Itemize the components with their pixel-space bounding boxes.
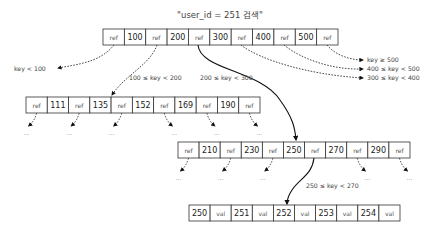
cell-key-value: 111: [50, 101, 65, 110]
cell-val: val: [216, 210, 225, 217]
child-pointer-arrow: [207, 113, 215, 126]
child-pointer-arrow: [223, 158, 231, 171]
cell-key-value: 300: [213, 33, 228, 42]
cell-ref: ref: [118, 102, 127, 109]
cell-ref: ref: [353, 147, 362, 154]
cell-key-value: 169: [178, 101, 193, 110]
left-child-page: ref111ref135ref152ref169ref190ref: [26, 97, 260, 113]
arrow-key-200-300-search-path: [198, 45, 296, 140]
arrow-key-250-270-search-path: [287, 158, 314, 204]
cell-key-value: 250: [286, 146, 301, 155]
cell-key-value: 400: [256, 33, 271, 42]
cell-ref: ref: [152, 34, 161, 41]
diagram-title: "user_id = 251 검색": [177, 10, 263, 20]
cell-key-value: 251: [234, 209, 249, 218]
label-key-lt-100: key < 100: [14, 65, 46, 73]
cell-key-value: 230: [244, 146, 259, 155]
middle-page-child-arrows: ...............: [176, 158, 413, 181]
cell-val: val: [301, 210, 310, 217]
cell-key-value: 200: [170, 33, 185, 42]
cell-ref: ref: [33, 102, 42, 109]
cell-ref: ref: [281, 34, 290, 41]
cell-key-value: 100: [127, 33, 142, 42]
cell-val: val: [343, 210, 352, 217]
cell-ref: ref: [184, 147, 193, 154]
cell-key-value: 500: [298, 33, 313, 42]
arrow-key-400-500: [284, 45, 363, 69]
cell-ref: ref: [245, 102, 254, 109]
cell-ref: ref: [238, 34, 247, 41]
cell-ref: ref: [203, 102, 212, 109]
cell-ref: ref: [160, 102, 169, 109]
cell-key-value: 254: [361, 209, 376, 218]
cell-ref: ref: [110, 34, 119, 41]
cell-val: val: [385, 210, 394, 217]
ellipsis: ...: [109, 129, 115, 136]
ellipsis: ...: [256, 129, 262, 136]
ellipsis: ...: [176, 174, 182, 181]
label-key-300-400: 300 ≤ key < 400: [367, 74, 420, 82]
child-pointer-arrow: [399, 158, 407, 171]
cell-key-value: 252: [276, 209, 291, 218]
child-pointer-arrow: [164, 113, 172, 126]
cell-ref: ref: [311, 147, 320, 154]
ellipsis: ...: [260, 174, 266, 181]
label-key-gte-500: key ≥ 500: [367, 56, 399, 64]
arrow-key-300-400: [241, 45, 363, 78]
root-page: ref100ref200ref300ref400ref500ref: [103, 29, 338, 45]
child-pointer-arrow: [114, 113, 122, 126]
cell-key-value: 190: [220, 101, 235, 110]
cell-key-value: 253: [319, 209, 334, 218]
cell-ref: ref: [195, 34, 204, 41]
cell-ref: ref: [227, 147, 236, 154]
cell-key-value: 290: [371, 146, 386, 155]
cell-ref: ref: [395, 147, 404, 154]
ellipsis: ...: [364, 174, 370, 181]
arrow-key-100-200: [112, 45, 157, 95]
child-pointer-arrow: [181, 158, 189, 171]
cell-ref: ref: [323, 34, 332, 41]
label-key-100-200: 100 ≤ key < 200: [129, 74, 182, 82]
label-key-400-500: 400 ≤ key < 500: [367, 65, 420, 73]
arrow-key-gte-500: [327, 45, 363, 60]
ellipsis: ...: [66, 129, 72, 136]
cell-key-value: 210: [202, 146, 217, 155]
ellipsis: ...: [24, 129, 30, 136]
child-pointer-arrow: [357, 158, 365, 171]
cell-val: val: [258, 210, 267, 217]
ellipsis: ...: [407, 174, 413, 181]
ellipsis: ...: [171, 129, 177, 136]
ellipsis: ...: [218, 174, 224, 181]
middle-child-page: ref210ref230ref250ref270ref290ref: [178, 142, 410, 158]
cell-ref: ref: [269, 147, 278, 154]
label-key-250-270: 250 ≤ key < 270: [306, 182, 359, 190]
cell-key-value: 135: [93, 101, 108, 110]
ellipsis: ...: [214, 129, 220, 136]
cell-key-value: 152: [135, 101, 150, 110]
cell-key-value: 250: [192, 209, 207, 218]
leaf-page: 250val251val252val253val254val: [189, 205, 400, 221]
child-pointer-arrow: [265, 158, 273, 171]
cell-key-value: 270: [329, 146, 344, 155]
arrow-key-lt-100: [58, 45, 114, 68]
child-pointer-arrow: [249, 113, 257, 126]
child-pointer-arrow: [71, 113, 79, 126]
cell-ref: ref: [75, 102, 84, 109]
btree-diagram: "user_id = 251 검색" ref100ref200ref300ref…: [0, 0, 441, 232]
child-pointer-arrow: [29, 113, 37, 126]
left-page-child-arrows: ..................: [24, 113, 263, 136]
label-key-200-300: 200 ≤ key < 300: [200, 74, 253, 82]
